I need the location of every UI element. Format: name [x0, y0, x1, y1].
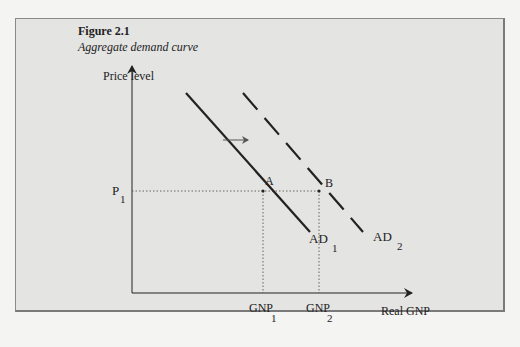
gnp2-subscript: 2 [327, 312, 333, 324]
y-axis-label: Price level [103, 69, 155, 83]
point-a-label: A [265, 174, 274, 188]
x-axis-label: Real GNP [381, 304, 430, 318]
point-b-label: B [325, 176, 333, 190]
gnp1-subscript: 1 [271, 312, 277, 324]
gnp1-label: GNP [249, 301, 273, 315]
ad1-curve [186, 93, 310, 232]
point-b-marker [317, 189, 320, 192]
ad1-label: AD [309, 231, 328, 246]
p1-label: P [112, 183, 119, 198]
ad1-subscript: 1 [332, 242, 338, 254]
ad2-curve [243, 93, 363, 232]
ad2-subscript: 2 [397, 240, 403, 252]
aggregate-demand-chart: Price level A B P 1 AD 1 AD 2 GNP 1 GNP … [0, 0, 520, 347]
point-a-marker [261, 189, 264, 192]
p1-subscript: 1 [120, 193, 126, 205]
ad2-label: AD [373, 229, 392, 244]
